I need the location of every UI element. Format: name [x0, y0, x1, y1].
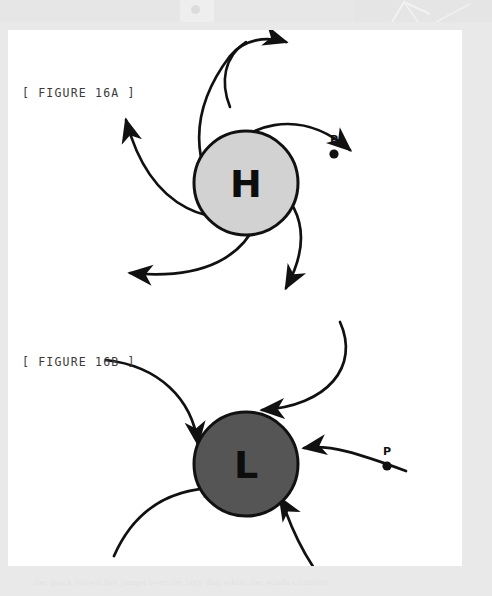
fig16b-point-p-marker — [382, 461, 391, 470]
fig16a-point-p-marker — [329, 149, 338, 158]
weather-circulation-diagram: H P L — [8, 30, 462, 566]
figure-16a-label: [ FIGURE 16A ] — [22, 86, 136, 100]
ghost-streak-graphic — [0, 0, 492, 22]
fig16b-flow-arrow-3 — [280, 498, 314, 566]
fig16a-point-p-label: P — [330, 133, 338, 146]
fig16a-core-letter: H — [230, 162, 262, 206]
fig16b-point-p-label: P — [383, 445, 391, 458]
figure-16a-group: H P — [126, 39, 350, 288]
figure-16b-label: [ FIGURE 16B ] — [22, 355, 136, 369]
fig16b-core-letter: L — [234, 443, 258, 487]
ghost-band — [0, 0, 492, 22]
fig16b-flow-arrow-5 — [106, 360, 198, 444]
figure-page: H P L — [0, 0, 492, 596]
ghost-footer: the quick brown fox jumps over the lazy … — [0, 574, 492, 596]
fig16b-flow-arrow-1 — [262, 322, 346, 410]
figure-16b-group: L P — [106, 322, 406, 566]
figure-card: H P L — [8, 30, 462, 566]
ghost-footer-text: the quick brown fox jumps over the lazy … — [34, 577, 464, 587]
